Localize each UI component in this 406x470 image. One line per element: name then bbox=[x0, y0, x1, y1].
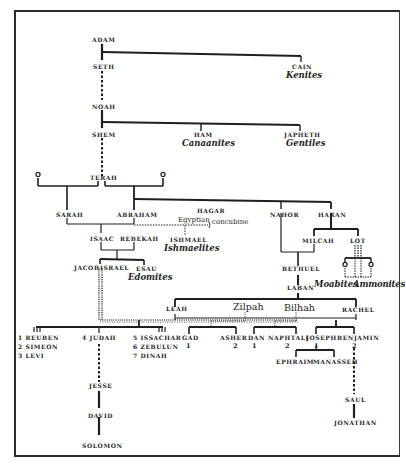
person-bethuel: BETHUEL bbox=[282, 266, 320, 272]
lot-child-marker-1: O bbox=[342, 262, 348, 269]
person-seth: SETH bbox=[93, 64, 114, 70]
person-joseph: JOSEPH bbox=[306, 335, 337, 341]
hagar-note-concubine: concubine bbox=[212, 219, 248, 226]
person-issachar: 5 ISSACHAR bbox=[133, 335, 181, 341]
person-adam: ADAM bbox=[92, 37, 116, 43]
person-leah: LEAH bbox=[166, 306, 188, 312]
person-bilhah: Bilhah bbox=[284, 303, 315, 313]
person-isaac: ISAAC bbox=[90, 236, 114, 242]
people-moabites: Moabites bbox=[314, 280, 358, 289]
unnamed-wife-right-marker: O bbox=[160, 172, 166, 179]
person-israel: ISRAEL bbox=[100, 265, 129, 271]
person-simeon: 2 SIMEON bbox=[18, 344, 58, 350]
lot-child-marker-2: O bbox=[368, 262, 374, 269]
person-abraham: ABRAHAM bbox=[117, 212, 158, 218]
person-manasseh: MANASSEH bbox=[313, 359, 358, 365]
person-dan: DAN bbox=[248, 335, 265, 341]
person-zebulun: 6 ZEBULUN bbox=[133, 344, 179, 350]
person-shem: SHEM bbox=[92, 132, 116, 138]
people-canaanites: Canaanites bbox=[182, 139, 235, 148]
asher-order: 2 bbox=[233, 343, 238, 350]
person-sarah: SARAH bbox=[56, 212, 83, 218]
person-benjamin: BENJAMIN bbox=[337, 335, 379, 341]
person-jonathan: JONATHAN bbox=[334, 420, 377, 426]
benjamin-order: 2 bbox=[352, 343, 357, 350]
person-hagar: HAGAR bbox=[197, 208, 225, 214]
person-jacob: JACOB bbox=[74, 265, 100, 271]
joseph-order: 1 bbox=[314, 343, 319, 350]
person-gad: GAD bbox=[182, 335, 199, 341]
person-dinah: 7 DINAH bbox=[133, 353, 167, 359]
person-haran: HARAN bbox=[318, 212, 346, 218]
person-noah: NOAH bbox=[92, 104, 115, 110]
person-levi: 3 LEVI bbox=[18, 353, 44, 359]
person-milcah: MILCAH bbox=[302, 238, 334, 244]
person-judah: 4 JUDAH bbox=[82, 335, 116, 341]
person-saul: SAUL bbox=[345, 397, 366, 403]
person-asher: ASHER bbox=[220, 335, 247, 341]
unnamed-wife-left-marker: O bbox=[35, 172, 41, 179]
hagar-note-egyptian: Egyptian bbox=[178, 217, 210, 224]
people-gentiles: Gentiles bbox=[286, 139, 325, 148]
person-zilpah: Zilpah bbox=[233, 302, 264, 312]
people-edomites: Edomites bbox=[128, 273, 172, 282]
people-ammonites: Ammonites bbox=[353, 280, 405, 289]
person-solomon: SOLOMON bbox=[82, 443, 123, 449]
person-jesse: JESSE bbox=[89, 383, 113, 389]
person-david: DAVID bbox=[88, 413, 113, 419]
people-ishmaelites: Ishmaelites bbox=[164, 244, 219, 253]
person-terah: TERAH bbox=[90, 175, 117, 181]
person-lot: LOT bbox=[350, 238, 366, 244]
dan-order: 1 bbox=[252, 343, 257, 350]
person-ephraim: EPHRAIM bbox=[276, 359, 314, 365]
person-laban: LABAN bbox=[287, 285, 314, 291]
gad-order: 1 bbox=[186, 343, 191, 350]
naphtali-order: 2 bbox=[285, 343, 290, 350]
person-rachel: RACHEL bbox=[342, 307, 374, 313]
person-reuben: 1 REUBEN bbox=[18, 335, 59, 341]
person-rebekah: REBEKAH bbox=[120, 236, 159, 242]
person-nahor: NAHOR bbox=[270, 212, 299, 218]
people-kenites: Kenites bbox=[286, 71, 322, 80]
person-naphtali: NAPHTALI bbox=[268, 335, 309, 341]
